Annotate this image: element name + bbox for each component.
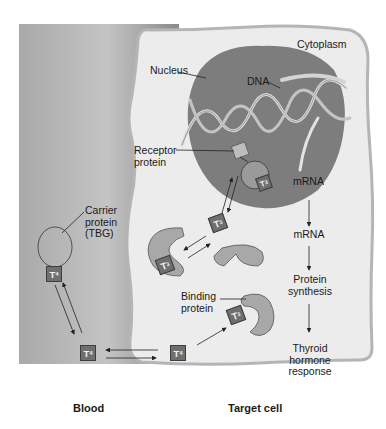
label-receptor-protein: Receptor protein [134, 145, 177, 168]
t4-cell-entry: T4 [170, 345, 186, 361]
label-dna: DNA [247, 76, 269, 88]
caption-target-cell: Target cell [228, 402, 282, 414]
label-protein-synthesis: Protein synthesis [285, 274, 335, 297]
label-mrna-cytoplasm: mRNA [293, 229, 325, 241]
caption-blood: Blood [73, 402, 104, 414]
t4-tbg-bound: T4 [46, 266, 62, 282]
t4-blood-free: T4 [80, 345, 96, 361]
label-thyroid-hormone-response: Thyroid hormone response [285, 343, 335, 378]
label-mrna-nucleus: mRNA [293, 176, 324, 188]
label-cytoplasm: Cytoplasm [297, 39, 347, 51]
label-binding-protein: Binding protein [181, 291, 216, 314]
label-nucleus: Nucleus [150, 65, 188, 77]
label-carrier-protein: Carrier protein (TBG) [85, 205, 117, 240]
